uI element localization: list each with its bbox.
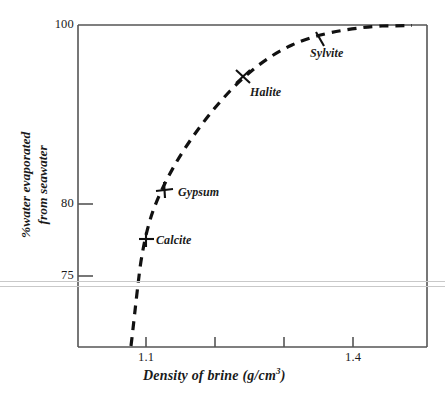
y-axis-ticks (78, 204, 93, 276)
x-axis-title-tail: ) (281, 368, 286, 383)
marker-halite (236, 70, 250, 83)
y-axis-title-line-1: %water evaporated (18, 132, 33, 238)
y-tick-label-75: 75 (46, 269, 74, 282)
marker-gypsum (156, 182, 173, 198)
x-tick-label-1-4: 1.4 (345, 351, 361, 364)
annotation-label-gypsum: Gypsum (178, 186, 219, 198)
annotation-label-calcite: Calcite (156, 234, 191, 246)
plot-frame (78, 25, 427, 347)
marker-calcite (139, 232, 154, 247)
y-axis-title-line-2: from seawater (35, 105, 52, 265)
evaporation-curve (131, 26, 412, 347)
figure-panel: 100 80 75 1.1 1.4 Calcite Gypsum Halite … (0, 0, 445, 400)
annotation-label-halite: Halite (250, 86, 281, 98)
y-tick-label-100: 100 (46, 18, 74, 31)
data-point-markers (139, 32, 324, 247)
x-axis-ticks (146, 337, 353, 347)
x-axis-title-text: Density of brine (g/cm (143, 368, 276, 383)
y-axis-title: %water evaporated from seawater (18, 105, 52, 265)
x-axis-title: Density of brine (g/cm3) (143, 369, 286, 383)
annotation-label-sylvite: Sylvite (310, 47, 343, 59)
x-tick-label-1-1: 1.1 (138, 351, 154, 364)
